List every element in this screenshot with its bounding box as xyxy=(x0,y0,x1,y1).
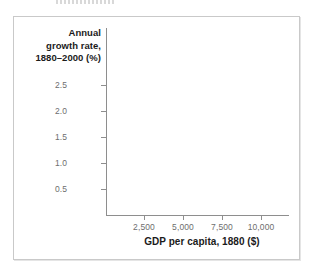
figure-frame: Annual growth rate, 1880–2000 (%) GDP pe… xyxy=(13,16,300,260)
clipped-text-artifact xyxy=(56,0,114,4)
data-series-layer xyxy=(14,17,301,261)
plot-area: Annual growth rate, 1880–2000 (%) GDP pe… xyxy=(14,17,299,259)
